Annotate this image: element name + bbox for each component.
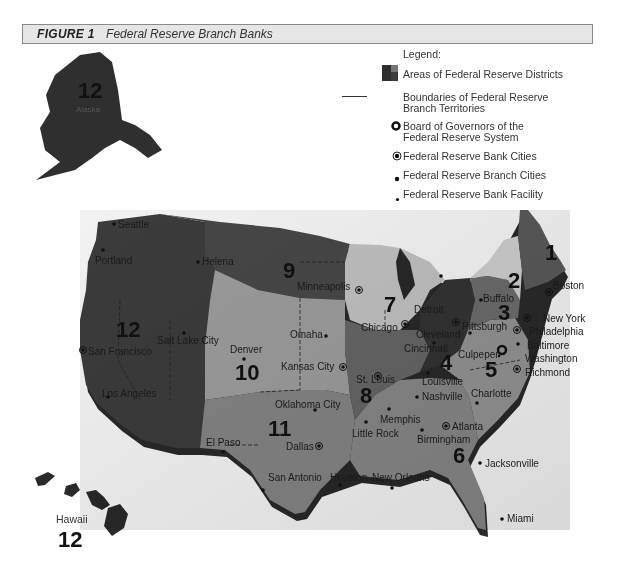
svg-text:St. Louis: St. Louis bbox=[356, 374, 395, 385]
svg-text:Cleveland: Cleveland bbox=[416, 329, 460, 340]
svg-text:Culpeper: Culpeper bbox=[458, 349, 499, 360]
svg-text:Richmond: Richmond bbox=[525, 367, 570, 378]
svg-text:Detroit: Detroit bbox=[414, 304, 444, 315]
svg-text:Helena: Helena bbox=[202, 256, 234, 267]
svg-text:Nashville: Nashville bbox=[422, 391, 463, 402]
svg-text:Boston: Boston bbox=[553, 280, 584, 291]
svg-text:Denver: Denver bbox=[230, 344, 263, 355]
svg-text:Oklahoma City: Oklahoma City bbox=[275, 399, 341, 410]
alaska-inset: 12 Alaska bbox=[36, 52, 162, 180]
hawaii-district-number: 12 bbox=[58, 527, 82, 553]
svg-text:Houston: Houston bbox=[330, 472, 367, 483]
svg-text:Omaha: Omaha bbox=[290, 329, 323, 340]
svg-text:Jacksonville: Jacksonville bbox=[485, 458, 539, 469]
svg-text:Chicago: Chicago bbox=[361, 322, 398, 333]
svg-text:Birmingham: Birmingham bbox=[417, 434, 470, 445]
us-federal-reserve-map: 12 Alaska 1 bbox=[0, 0, 619, 576]
svg-text:Baltimore: Baltimore bbox=[527, 340, 570, 351]
svg-text:Atlanta: Atlanta bbox=[452, 421, 484, 432]
district-number-6: 6 bbox=[453, 443, 465, 468]
svg-text:Louisville: Louisville bbox=[422, 376, 464, 387]
svg-text:San Francisco: San Francisco bbox=[88, 346, 152, 357]
district-number-5: 5 bbox=[485, 357, 497, 382]
alaska-district-number: 12 bbox=[78, 78, 102, 103]
district-number-1: 1 bbox=[545, 240, 557, 265]
district-number-12: 12 bbox=[116, 317, 140, 342]
district-number-11: 11 bbox=[268, 416, 291, 441]
svg-text:Little Rock: Little Rock bbox=[352, 428, 400, 439]
svg-text:Portland: Portland bbox=[95, 255, 132, 266]
hawaii-label: Hawaii bbox=[56, 513, 88, 525]
svg-text:Philadelphia: Philadelphia bbox=[529, 326, 584, 337]
svg-text:Cincinnati: Cincinnati bbox=[404, 343, 448, 354]
svg-text:Washington: Washington bbox=[525, 353, 577, 364]
svg-text:Buffalo: Buffalo bbox=[483, 293, 514, 304]
svg-text:Minneapolis: Minneapolis bbox=[297, 281, 350, 292]
svg-text:Kansas City: Kansas City bbox=[281, 361, 334, 372]
district-number-10: 10 bbox=[235, 360, 259, 385]
svg-text:Pittsburgh: Pittsburgh bbox=[462, 321, 507, 332]
svg-text:Memphis: Memphis bbox=[380, 414, 421, 425]
svg-text:El Paso: El Paso bbox=[206, 437, 241, 448]
district-number-8: 8 bbox=[360, 383, 372, 408]
svg-text:New Orleans: New Orleans bbox=[372, 472, 430, 483]
district-number-2: 2 bbox=[508, 268, 520, 293]
svg-text:Salt Lake City: Salt Lake City bbox=[157, 335, 219, 346]
svg-text:Charlotte: Charlotte bbox=[471, 388, 512, 399]
alaska-label: Alaska bbox=[76, 105, 101, 114]
svg-text:New York: New York bbox=[543, 313, 586, 324]
svg-text:San Antonio: San Antonio bbox=[268, 472, 322, 483]
district-number-7: 7 bbox=[384, 292, 396, 317]
svg-text:Los Angeles: Los Angeles bbox=[102, 388, 157, 399]
district-number-9: 9 bbox=[283, 258, 295, 283]
svg-text:Miami: Miami bbox=[507, 513, 534, 524]
svg-text:Dallas: Dallas bbox=[286, 441, 314, 452]
svg-text:Seattle: Seattle bbox=[118, 219, 150, 230]
